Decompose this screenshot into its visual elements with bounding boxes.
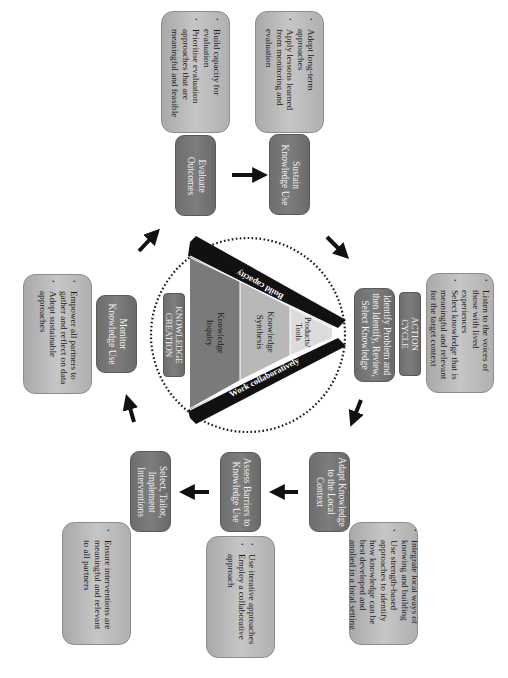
- step-select-interventions: Select, Tailor, Implement Interventions: [130, 451, 171, 532]
- note-bullet: Build capacity for evaluation: [201, 29, 222, 127]
- note-adapt-knowledge: Integrate local ways of knowing and buil…: [349, 522, 418, 645]
- funnel-label-synthesis: Knowledge Synthesis: [240, 312, 290, 352]
- step-evaluate-outcomes: Evaluate Outcomes: [175, 135, 216, 216]
- note-bullet: Use iterative approaches: [246, 554, 256, 652]
- step-identify-problem: Identify Problem and then Identify, Revi…: [354, 288, 395, 382]
- arrow-identify-to-adapt: [353, 400, 361, 420]
- knowledge-creation-label: KNOWLEDGE CREATION: [163, 293, 185, 377]
- note-bullet: Adopt long-term approaches: [295, 29, 316, 127]
- note-bullet: Empower all partners to gather and refle…: [58, 291, 79, 389]
- note-bullet: Employ a collaborative approach: [225, 554, 246, 652]
- note-evaluate-outcomes: Build capacity for evaluation Prioritise…: [161, 11, 230, 133]
- note-bullet: Ensure interventions are meaningful and …: [81, 540, 112, 640]
- step-monitor-knowledge-use: Monitor Knowledge Use: [96, 295, 137, 373]
- note-identify-problem: Listen to the voices of those with lived…: [426, 273, 494, 393]
- note-bullet: Apply lessons learned from monitoring an…: [263, 29, 294, 127]
- note-assess-barriers: Use iterative approaches Employ a collab…: [206, 536, 275, 658]
- step-adapt-knowledge: Adapt Knowledge to the Local Context: [309, 452, 350, 532]
- note-monitor-knowledge-use: Empower all partners to gather and refle…: [23, 274, 92, 394]
- note-select-interventions: Ensure interventions are meaningful and …: [62, 522, 131, 645]
- action-cycle-label: ACTION CYCLE: [399, 292, 421, 376]
- note-sustain-knowledge-use: Adopt long-term approaches Apply lessons…: [255, 11, 324, 133]
- funnel-label-tools: Products/ Tools: [288, 318, 318, 346]
- note-bullet: Integrate local ways of knowing and buil…: [399, 540, 418, 640]
- note-bullet: Adopt sustainable approaches: [37, 291, 58, 389]
- note-bullet: Prioritise evaluation approaches that ar…: [169, 29, 200, 127]
- arrow-sustain-to-identify: [327, 237, 344, 254]
- note-bullet: Listen to the voices of those with lived…: [460, 290, 491, 388]
- step-sustain-knowledge-use: Sustain Knowledge Use: [269, 134, 310, 215]
- arrow-select-to-monitor: [128, 401, 134, 422]
- funnel-label-inquiry: Knowledge Inquiry: [190, 308, 240, 358]
- note-bullet: Use strength-based approaches to identif…: [349, 540, 399, 640]
- note-bullet: Select knowledge that is meaningful and …: [429, 290, 460, 388]
- arrow-monitor-to-evaluate: [139, 234, 155, 251]
- step-assess-barriers: Assess Barriers to Knowledge Use: [220, 452, 261, 532]
